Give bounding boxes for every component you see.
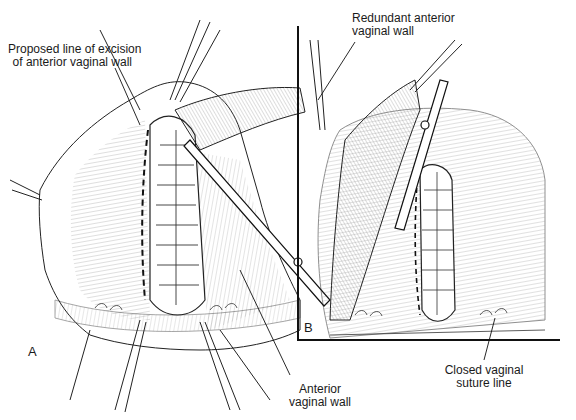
- label-line: vaginal wall: [280, 396, 360, 409]
- surgical-illustration: Proposed line of excision of anterior va…: [0, 0, 576, 420]
- label-redundant-anterior-vaginal-wall: Redundant anterior vaginal wall: [352, 12, 455, 38]
- label-line: vaginal wall: [352, 25, 455, 38]
- leader-redundant-wall: [318, 42, 355, 100]
- panel-label-b: B: [304, 320, 313, 335]
- label-anterior-vaginal-wall: Anterior vaginal wall: [280, 383, 360, 409]
- panel-b-drawing: [298, 26, 560, 360]
- label-proposed-line-excision: Proposed line of excision of anterior va…: [8, 43, 132, 69]
- panel-label-a: A: [28, 344, 37, 359]
- panel-a-drawing: [10, 20, 330, 412]
- label-line: suture line: [436, 377, 532, 390]
- label-closed-vaginal-suture-line: Closed vaginal suture line: [436, 364, 532, 390]
- label-line: of anterior vaginal wall: [8, 56, 132, 69]
